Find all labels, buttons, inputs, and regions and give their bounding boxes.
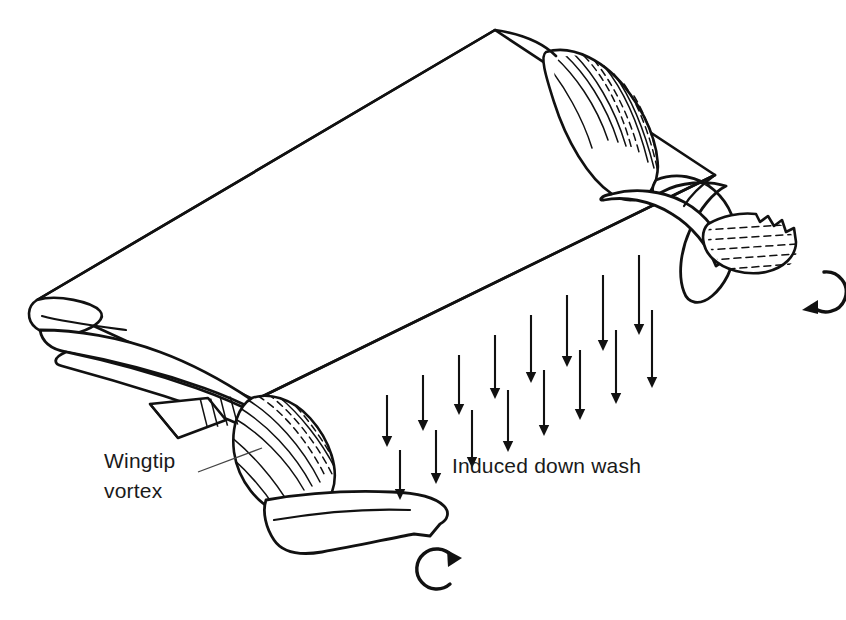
wingtip-vortex-label-line2: vortex xyxy=(104,479,163,502)
downwash-arrow-head xyxy=(454,404,464,415)
downwash-arrow xyxy=(503,390,513,452)
downwash-arrow-head xyxy=(382,436,392,447)
wingtip-vortex-diagram: Wingtip vortex Induced down wash xyxy=(0,0,846,620)
downwash-arrow-head xyxy=(575,409,585,420)
downwash-arrow xyxy=(562,295,572,367)
figure-root: Wingtip vortex Induced down wash xyxy=(0,0,846,620)
downwash-arrow xyxy=(539,370,549,436)
left-vortex-trailing-ribbon xyxy=(264,491,447,553)
induced-downwash-label: Induced down wash xyxy=(452,454,641,477)
downwash-arrow xyxy=(526,315,536,383)
downwash-arrow-head xyxy=(418,420,428,431)
downwash-arrow-head xyxy=(562,356,572,367)
downwash-arrow xyxy=(431,430,441,484)
downwash-arrow xyxy=(382,395,392,447)
downwash-arrow xyxy=(490,335,500,399)
downwash-arrow-head xyxy=(431,473,441,484)
downwash-arrow xyxy=(454,355,464,415)
downwash-arrow xyxy=(647,310,657,388)
right-rotation-arrowhead xyxy=(802,300,818,314)
right-rotation-arrow xyxy=(802,272,846,314)
downwash-arrow-head xyxy=(598,340,608,351)
downwash-arrow-head xyxy=(490,388,500,399)
downwash-arrow xyxy=(634,255,644,335)
downwash-arrow xyxy=(611,330,621,404)
left-rotation-arrow xyxy=(417,549,462,589)
downwash-arrow-head xyxy=(647,377,657,388)
wingtip-vortex-label-line1: Wingtip xyxy=(104,449,175,472)
downwash-arrow-head xyxy=(611,393,621,404)
left-rotation-arrowhead xyxy=(447,550,462,567)
downwash-arrow xyxy=(575,350,585,420)
downwash-arrow-head xyxy=(539,425,549,436)
downwash-arrow-head xyxy=(634,324,644,335)
label-induced-downwash-group: Induced down wash xyxy=(452,454,641,477)
downwash-arrow-head xyxy=(526,372,536,383)
downwash-arrow-head xyxy=(503,441,513,452)
downwash-arrow xyxy=(598,275,608,351)
downwash-arrow xyxy=(418,375,428,431)
